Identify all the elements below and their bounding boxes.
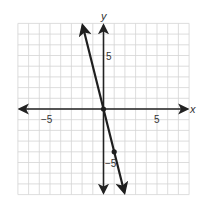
y-axis-label: y [100,10,108,22]
marked-point [101,106,106,111]
x-tick-label-5: 5 [154,114,160,125]
x-axis-label: x [189,103,196,115]
x-tick-label-neg5: −5 [41,114,53,125]
y-tick-label-neg5: −5 [105,158,117,169]
y-tick-label-5: 5 [106,51,112,62]
coordinate-plane: x y −5 5 5 −5 [0,0,206,210]
marked-point [112,149,117,154]
